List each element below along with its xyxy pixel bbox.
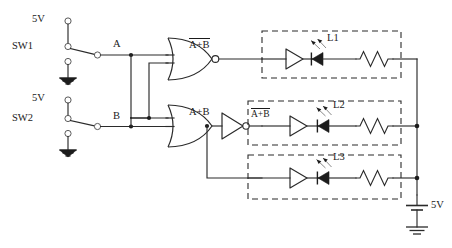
- wire-b-to-nor-gate: [149, 63, 168, 118]
- sw1-output-terminal-icon: [94, 52, 100, 58]
- sw2-ground-terminal-icon: [65, 130, 71, 136]
- nor-gate-bubble-icon: [212, 56, 219, 63]
- signal-b-label: B: [113, 111, 120, 122]
- l2-resistor-icon: [356, 119, 393, 134]
- l2-branch-group: [262, 106, 417, 136]
- l2-buffer[interactable]: [290, 116, 307, 136]
- l1-buffer[interactable]: [286, 49, 303, 69]
- l3-led-icon: [317, 158, 332, 185]
- ground-icon-battery: [406, 227, 428, 234]
- sw2-supply-terminal-icon: [65, 97, 71, 103]
- switch-sw1-group[interactable]: [60, 18, 101, 85]
- battery-label: 5V: [431, 200, 444, 211]
- l2-input-label: A+B: [251, 108, 270, 119]
- sw1-blade[interactable]: [71, 49, 96, 55]
- sw1-label: SW1: [12, 41, 33, 52]
- l2-input-expression: A+B: [251, 108, 270, 119]
- sw2-label: SW2: [12, 113, 33, 124]
- l3-buffer[interactable]: [290, 168, 307, 188]
- nor-output-label: A+B: [189, 38, 210, 50]
- circuit-diagram: 5V SW1 A 5V SW2 B A+B A+B A+B L1 L2 L3 5…: [0, 0, 452, 248]
- l3-resistor-icon: [356, 171, 393, 186]
- or-output-label: A+B: [189, 107, 210, 118]
- l2-label: L2: [333, 100, 345, 111]
- signal-a-label: A: [113, 39, 121, 50]
- l1-led-icon: [311, 39, 326, 66]
- junction-bus-l2: [415, 124, 420, 129]
- battery-group: [406, 195, 428, 234]
- sw1-supply-terminal-icon: [65, 18, 71, 24]
- circuit-canvas: [0, 0, 452, 248]
- sw2-output-terminal-icon: [94, 123, 100, 129]
- l1-label: L1: [327, 33, 339, 44]
- wire-or-to-l3: [207, 126, 262, 178]
- ground-icon-sw2: [60, 150, 77, 157]
- junction-bus-l3: [415, 176, 420, 181]
- l1-resistor-icon: [356, 52, 393, 67]
- l3-branch-group: [248, 158, 417, 188]
- sw1-supply-label: 5V: [32, 14, 45, 25]
- sw1-ground-terminal-icon: [65, 58, 71, 64]
- sw2-supply-label: 5V: [32, 93, 45, 104]
- sw2-blade[interactable]: [71, 121, 96, 127]
- ground-icon-sw1: [60, 78, 77, 85]
- switch-sw2-group[interactable]: [60, 97, 101, 157]
- l1-branch-group: [262, 39, 417, 69]
- l3-label: L3: [333, 152, 345, 163]
- l2-led-icon: [317, 106, 332, 133]
- nor-output-expression: A+B: [189, 38, 210, 50]
- junction-b-crossover: [147, 116, 151, 120]
